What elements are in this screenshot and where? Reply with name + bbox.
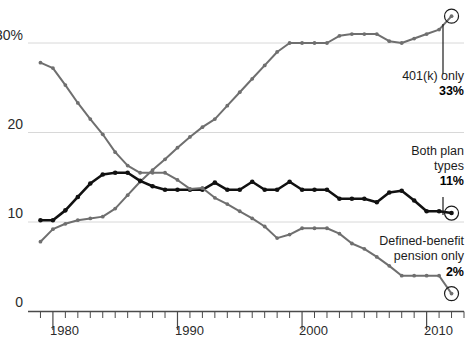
data-point-marker	[288, 233, 292, 237]
data-point-marker	[362, 196, 367, 201]
data-point-marker	[238, 209, 242, 213]
data-point-marker	[250, 179, 255, 184]
data-point-marker	[350, 242, 354, 246]
data-point-marker	[113, 170, 118, 175]
annotation-401k-line-1: 401(k) only	[402, 69, 465, 83]
data-point-marker	[300, 187, 305, 192]
data-point-marker	[176, 146, 180, 150]
data-point-marker	[325, 187, 330, 192]
data-point-marker	[238, 90, 242, 94]
data-point-marker	[51, 227, 55, 231]
x-tick-label-2000: 2000	[299, 323, 328, 338]
series-line	[40, 16, 451, 242]
data-point-marker	[400, 41, 404, 45]
data-point-marker	[163, 157, 167, 161]
series-line	[40, 173, 451, 220]
data-point-marker	[39, 61, 43, 65]
data-point-marker	[225, 187, 230, 192]
data-point-marker	[275, 50, 279, 54]
y-axis-tick-labels: 30% 20 10 0	[0, 27, 23, 310]
data-point-marker	[88, 181, 93, 186]
data-point-marker	[163, 171, 167, 175]
data-point-marker	[449, 211, 454, 216]
x-axis-minor-ticks	[40, 312, 464, 319]
data-point-marker	[437, 209, 442, 214]
data-point-marker	[250, 217, 254, 221]
data-point-marker	[437, 274, 441, 278]
data-point-marker	[151, 171, 155, 175]
data-point-marker	[113, 150, 117, 154]
x-tick-label-1990: 1990	[175, 323, 204, 338]
data-point-marker	[262, 187, 267, 192]
data-point-marker	[325, 41, 329, 45]
data-point-marker	[300, 41, 304, 45]
data-point-marker	[412, 198, 417, 203]
y-tick-label-20: 20	[7, 116, 23, 132]
data-point-marker	[400, 274, 404, 278]
data-point-marker	[425, 274, 429, 278]
data-point-marker	[138, 171, 142, 175]
data-point-marker	[188, 187, 192, 191]
annotation-both-plans-line-2: types	[434, 159, 464, 173]
data-point-marker	[300, 226, 304, 230]
data-point-marker	[88, 217, 92, 221]
x-tick-label-2010: 2010	[424, 323, 453, 338]
data-point-marker	[51, 66, 55, 70]
data-point-marker	[275, 187, 280, 192]
data-point-marker	[213, 180, 218, 185]
y-tick-label-0: 0	[15, 294, 23, 310]
data-point-marker	[126, 164, 130, 168]
data-point-marker	[424, 209, 429, 214]
data-point-marker	[201, 186, 205, 190]
series-0	[39, 14, 454, 243]
series-2	[39, 61, 454, 296]
data-point-marker	[88, 117, 92, 121]
data-point-marker	[387, 190, 392, 195]
data-point-marker	[225, 104, 229, 108]
data-point-marker	[175, 187, 180, 192]
data-point-marker	[375, 200, 380, 205]
data-point-marker	[375, 32, 379, 36]
data-point-marker	[213, 196, 217, 200]
annotation-defined-benefit-line-1: Defined-benefit	[379, 234, 464, 248]
data-point-marker	[63, 83, 67, 87]
data-point-marker	[125, 170, 130, 175]
data-point-marker	[313, 226, 317, 230]
data-point-marker	[350, 32, 354, 36]
annotation-401k: 401(k) only 33%	[402, 24, 465, 98]
annotation-defined-benefit: Defined-benefit pension only 2%	[379, 234, 465, 279]
data-point-marker	[425, 32, 429, 36]
annotation-both-plans-line-1: Both plan	[411, 144, 464, 158]
retirement-plan-line-chart: 30% 20 10 0 1980 1990 2000 2010 401(k) o…	[0, 0, 468, 350]
data-point-marker	[63, 208, 68, 213]
y-tick-label-10: 10	[7, 205, 23, 221]
data-series-layer	[38, 14, 454, 295]
data-point-marker	[338, 34, 342, 38]
data-point-marker	[387, 264, 391, 268]
data-point-marker	[250, 77, 254, 81]
data-point-marker	[325, 226, 329, 230]
data-point-marker	[201, 125, 205, 129]
x-axis: 1980 1990 2000 2010	[28, 312, 464, 339]
data-point-marker	[362, 32, 366, 36]
data-point-marker	[275, 236, 279, 240]
data-point-marker	[225, 202, 229, 206]
data-point-marker	[63, 222, 67, 226]
data-point-marker	[450, 292, 454, 296]
data-point-marker	[412, 37, 416, 41]
data-point-marker	[188, 135, 192, 139]
data-point-marker	[263, 63, 267, 67]
data-point-marker	[387, 39, 391, 43]
data-point-marker	[437, 28, 441, 32]
data-point-marker	[313, 41, 317, 45]
data-point-marker	[150, 184, 155, 189]
annotation-401k-value: 33%	[439, 84, 464, 98]
data-point-marker	[350, 196, 355, 201]
y-tick-label-30: 30%	[0, 27, 23, 43]
data-point-marker	[138, 179, 143, 184]
data-point-marker	[338, 232, 342, 236]
data-point-marker	[76, 195, 81, 200]
data-point-marker	[39, 240, 43, 244]
data-point-marker	[126, 193, 130, 197]
annotation-both-plans-value: 11%	[440, 174, 464, 188]
